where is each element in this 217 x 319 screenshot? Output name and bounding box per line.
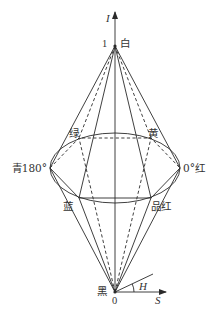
bottom-apex-color-label: 黑 [97, 285, 107, 297]
saturation-axis-label: S [155, 294, 161, 306]
vertex-label-yellow: 黄 [148, 127, 158, 139]
vertex-label-red: 0°红 [183, 162, 206, 174]
hsi-double-cone-diagram: I S H 1 白 0 黑 绿 黄 青180° 0°红 蓝 品红 [0, 0, 217, 319]
vertex-label-blue: 蓝 [63, 200, 74, 212]
hue-angle-label: H [138, 280, 148, 292]
vertex-label-magenta: 品红 [151, 200, 172, 212]
top-apex-value: 1 [102, 38, 107, 49]
intensity-axis-label: I [105, 12, 111, 24]
top-apex-color-label: 白 [120, 37, 130, 49]
hue-angle-arc [132, 284, 134, 292]
vertex-label-green: 绿 [69, 127, 80, 139]
bottom-apex-value: 0 [112, 295, 117, 306]
vertex-label-cyan: 青180° [12, 162, 47, 174]
bottom-apex-point [113, 290, 116, 293]
top-apex-point [113, 44, 116, 47]
